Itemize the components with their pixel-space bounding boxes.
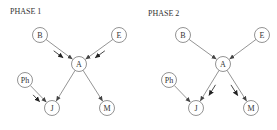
node-label: Ph — [21, 76, 29, 85]
node-label: M — [247, 104, 254, 113]
flow-arrow-ph-to-j — [33, 95, 39, 102]
edges — [174, 39, 256, 102]
edge-e-to-a — [229, 39, 256, 59]
nodes: BEAPhJM — [162, 28, 270, 116]
nodes: BEAPhJM — [18, 28, 127, 116]
bayes-network-diagram: PHASE 1 BEAPhJM PHASE 2 BEAPhJM — [0, 0, 277, 130]
node-ph: Ph — [162, 73, 177, 88]
node-m: M — [244, 101, 259, 116]
edge-ph-to-j — [174, 85, 190, 102]
flow-arrows — [33, 51, 105, 102]
node-m: M — [100, 101, 115, 116]
node-a: A — [216, 57, 231, 72]
edge-e-to-a — [85, 39, 112, 59]
node-label: A — [76, 60, 82, 69]
panel-phase-2: PHASE 2 BEAPhJM — [148, 9, 270, 116]
node-e: E — [255, 28, 270, 43]
edge-a-to-m — [83, 70, 103, 101]
node-label: A — [220, 60, 226, 69]
panel-title: PHASE 1 — [10, 7, 41, 16]
edge-a-to-m — [227, 70, 247, 101]
flow-arrow-b-to-a — [54, 51, 63, 58]
edge-a-to-j — [56, 70, 75, 101]
node-label: B — [180, 31, 185, 40]
node-e: E — [112, 28, 127, 43]
node-label: B — [37, 31, 42, 40]
node-label: M — [103, 104, 110, 113]
node-j: J — [189, 101, 204, 116]
edge-b-to-a — [46, 39, 73, 59]
flow-arrows — [209, 85, 238, 96]
node-ph: Ph — [18, 73, 33, 88]
node-b: B — [33, 28, 48, 43]
node-j: J — [45, 101, 60, 116]
node-label: E — [260, 31, 265, 40]
node-a: A — [72, 57, 87, 72]
edges — [30, 39, 113, 102]
panel-title: PHASE 2 — [148, 9, 179, 18]
panel-phase-1: PHASE 1 BEAPhJM — [10, 7, 127, 116]
edge-a-to-j — [200, 70, 219, 101]
flow-arrow-a-to-m — [231, 85, 238, 96]
flow-arrow-a-to-j — [209, 85, 215, 96]
node-b: B — [176, 28, 191, 43]
flow-arrow-e-to-a — [95, 51, 105, 58]
node-label: J — [194, 104, 197, 113]
node-label: Ph — [165, 76, 173, 85]
node-label: E — [117, 31, 122, 40]
edge-b-to-a — [189, 39, 216, 59]
node-label: J — [50, 104, 53, 113]
